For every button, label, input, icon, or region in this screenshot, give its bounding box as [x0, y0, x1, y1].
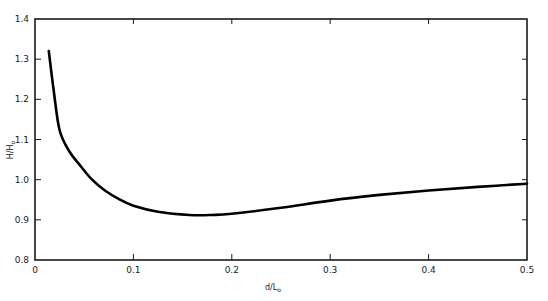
x-axis: 00.10.20.30.40.5: [32, 19, 534, 275]
y-tick-label: 0.8: [15, 255, 30, 265]
plot-frame: [35, 19, 527, 260]
x-tick-label: 0.5: [520, 265, 534, 275]
y-tick-label: 1.3: [15, 54, 29, 64]
x-tick-label: 0.2: [225, 265, 239, 275]
x-tick-label: 0.4: [421, 265, 436, 275]
x-tick-label: 0.1: [126, 265, 140, 275]
y-axis-label: H/Ho: [6, 140, 16, 159]
x-tick-label: 0: [32, 265, 38, 275]
y-tick-label: 0.9: [15, 215, 30, 225]
chart: 00.10.20.30.40.5 0.80.91.01.11.21.31.4 d…: [0, 0, 548, 301]
x-axis-label: d/Lo: [265, 283, 281, 293]
y-axis: 0.80.91.01.11.21.31.4: [15, 14, 527, 265]
plot-border: [35, 19, 527, 260]
data-line-h-over-ho: [49, 51, 527, 215]
y-tick-label: 1.1: [15, 135, 29, 145]
y-tick-label: 1.2: [15, 94, 29, 104]
y-tick-label: 1.4: [15, 14, 30, 24]
x-tick-label: 0.3: [323, 265, 337, 275]
y-tick-label: 1.0: [15, 175, 30, 185]
